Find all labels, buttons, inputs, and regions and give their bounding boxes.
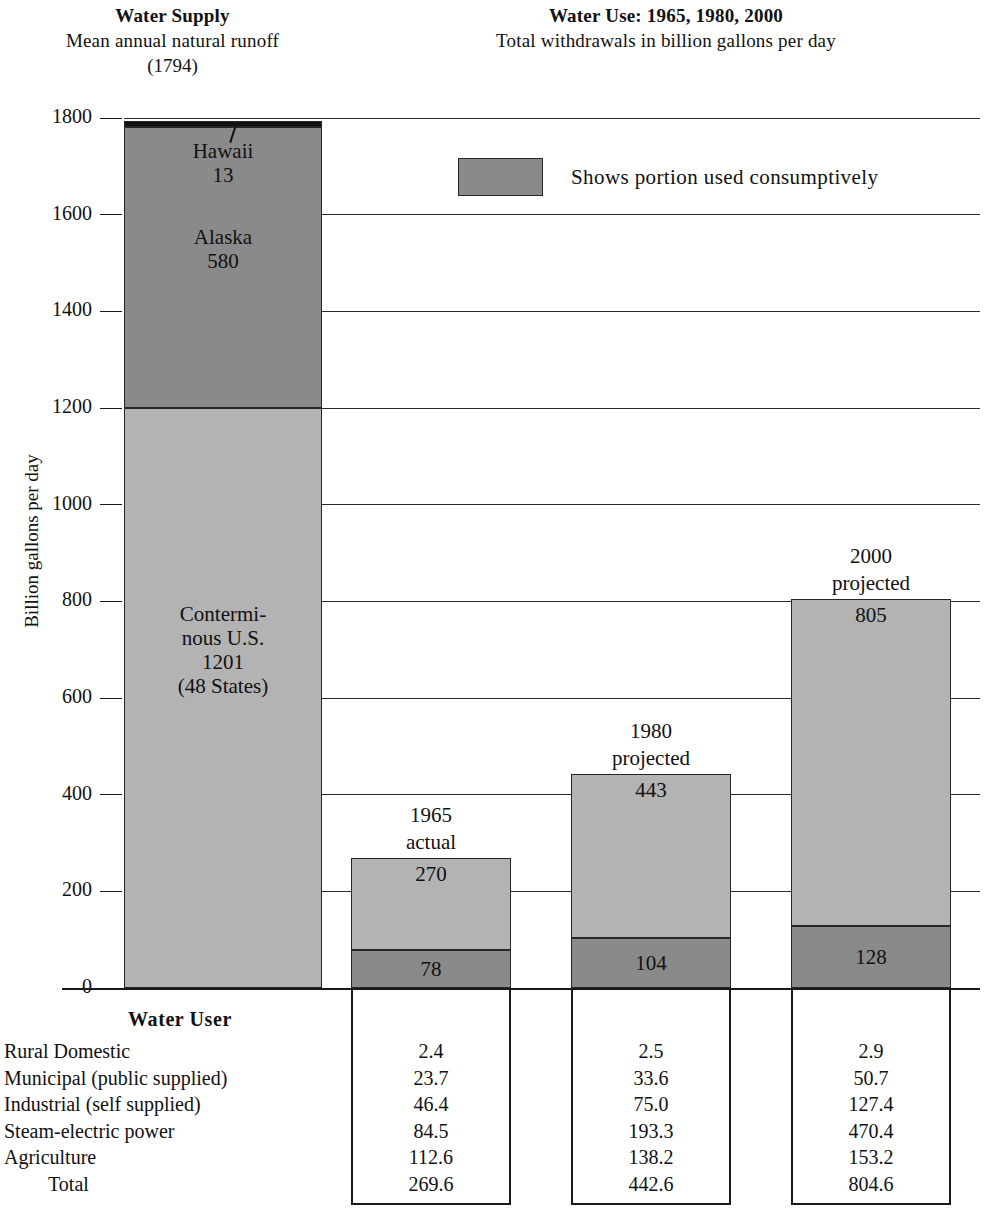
y-tick-mark-800 [100,601,122,602]
table-cell: 50.7 [791,1065,951,1091]
chart-plot-area: Billion gallons per day 1800160014001200… [0,0,987,1000]
table-cell: 442.6 [571,1171,731,1197]
table-row-label: Agriculture [4,1144,96,1170]
bar-caption-1980-projected: 1980 projected [551,718,751,772]
table-cell: 46.4 [351,1091,511,1117]
table-row-label: Municipal (public supplied) [4,1065,227,1091]
table-cell: 2.5 [571,1038,731,1064]
water-user-table: Water User Rural DomesticMunicipal (publ… [0,990,987,1217]
bar-segment-water-supply-conterminous-u-s-48-states- [124,408,322,988]
bar-value-label-2000-projected-consumptive: 128 [791,945,951,969]
table-cell: 269.6 [351,1171,511,1197]
bar-value-label-2000-projected-withdrawal: 805 [791,603,951,627]
y-tick-label-600: 600 [20,686,92,706]
y-tick-mark-1800 [100,118,122,119]
bar-caption-1965-actual: 1965 actual [331,802,531,856]
table-cell: 138.2 [571,1144,731,1170]
y-tick-label-1400: 1400 [20,299,92,319]
bar-value-label-1980-projected-consumptive: 104 [571,951,731,975]
y-tick-label-1600: 1600 [20,203,92,223]
y-tick-mark-200 [100,891,122,892]
y-tick-mark-1200 [100,408,122,409]
table-cell: 153.2 [791,1144,951,1170]
bar-value-label-water-supply-alaska: Alaska 580 [124,225,322,273]
legend-label: Shows portion used consumptively [571,165,878,190]
bar-segment-2000-projected-withdrawal [791,599,951,926]
y-tick-label-400: 400 [20,783,92,803]
y-axis-title: Billion gallons per day [21,391,43,691]
y-tick-mark-400 [100,794,122,795]
table-row-label: Steam-electric power [4,1118,174,1144]
gridline-1800 [124,118,980,119]
table-cell: 127.4 [791,1091,951,1117]
y-tick-label-1800: 1800 [20,106,92,126]
bar-value-label-water-supply-conterminous-u-s-48-states-: Contermi- nous U.S. 1201 (48 States) [124,602,322,698]
y-tick-mark-600 [100,698,122,699]
table-cell: 2.9 [791,1038,951,1064]
table-cell: 84.5 [351,1118,511,1144]
y-tick-label-800: 800 [20,589,92,609]
table-cell: 33.6 [571,1065,731,1091]
table-cell: 2.4 [351,1038,511,1064]
y-tick-mark-1600 [100,214,122,215]
table-cell: 470.4 [791,1118,951,1144]
y-tick-label-1200: 1200 [20,396,92,416]
table-row-label: Total [48,1171,89,1197]
table-cell: 193.3 [571,1118,731,1144]
y-tick-label-200: 200 [20,879,92,899]
table-row-label: Industrial (self supplied) [4,1091,201,1117]
legend-swatch-consumptive [458,158,543,196]
table-cell: 23.7 [351,1065,511,1091]
bar-value-label-water-supply-hawaii: Hawaii 13 [124,139,322,187]
table-cell: 75.0 [571,1091,731,1117]
bar-caption-2000-projected: 2000 projected [771,543,971,597]
table-row-label: Rural Domestic [4,1038,130,1064]
table-row-header: Water User [30,1008,330,1031]
legend: Shows portion used consumptively [458,158,878,196]
bar-value-label-1965-actual-withdrawal: 270 [351,862,511,886]
table-cell: 804.6 [791,1171,951,1197]
y-tick-mark-1000 [100,504,122,505]
bar-segment-water-supply-hawaii [124,121,322,127]
y-tick-label-1000: 1000 [20,493,92,513]
bar-value-label-1965-actual-consumptive: 78 [351,957,511,981]
bar-value-label-1980-projected-withdrawal: 443 [571,778,731,802]
y-tick-mark-1400 [100,311,122,312]
table-cell: 112.6 [351,1144,511,1170]
